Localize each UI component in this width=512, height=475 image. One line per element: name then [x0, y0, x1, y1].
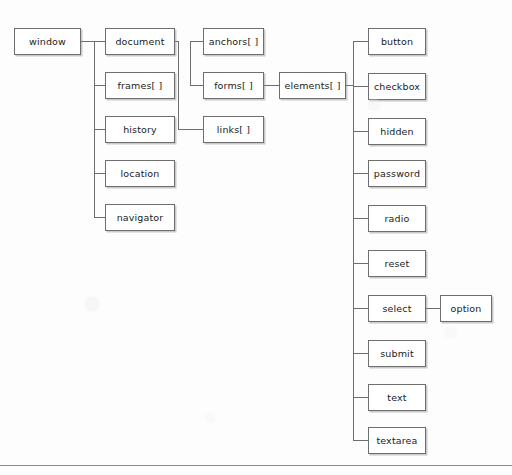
node-links[interactable]: links[ ]: [203, 116, 264, 143]
node-frames[interactable]: frames[ ]: [105, 72, 175, 99]
node-label-text: text: [387, 392, 406, 402]
node-label-checkbox: checkbox: [374, 81, 420, 91]
node-label-reset: reset: [385, 258, 410, 268]
node-label-history: history: [123, 124, 157, 134]
node-password[interactable]: password: [368, 160, 426, 187]
node-label-navigator: navigator: [117, 212, 164, 222]
node-textarea[interactable]: textarea: [368, 427, 426, 454]
node-radio[interactable]: radio: [368, 205, 426, 232]
node-navigator[interactable]: navigator: [105, 204, 175, 231]
node-checkbox[interactable]: checkbox: [368, 73, 426, 100]
node-hidden[interactable]: hidden: [368, 118, 426, 145]
node-label-button: button: [381, 36, 413, 46]
node-anchors[interactable]: anchors[ ]: [203, 28, 264, 55]
node-option[interactable]: option: [440, 295, 492, 322]
node-label-forms: forms[ ]: [214, 80, 253, 90]
page-rule: [0, 465, 512, 466]
node-forms[interactable]: forms[ ]: [203, 72, 264, 99]
node-label-document: document: [115, 36, 164, 46]
node-elements[interactable]: elements[ ]: [279, 72, 346, 99]
node-select[interactable]: select: [368, 295, 426, 322]
node-label-radio: radio: [385, 213, 410, 223]
node-document[interactable]: document: [105, 28, 175, 55]
node-location[interactable]: location: [105, 160, 175, 187]
diagram-canvas: window document frames[ ] history locati…: [0, 0, 512, 475]
node-label-hidden: hidden: [380, 126, 414, 136]
node-text[interactable]: text: [368, 384, 426, 411]
node-label-location: location: [121, 168, 160, 178]
node-label-anchors: anchors[ ]: [209, 36, 259, 46]
node-label-submit: submit: [380, 348, 414, 358]
node-label-option: option: [451, 303, 482, 313]
node-label-links: links[ ]: [217, 124, 250, 134]
node-label-window: window: [29, 36, 66, 46]
node-button[interactable]: button: [368, 28, 426, 55]
node-label-elements: elements[ ]: [284, 80, 340, 90]
edge-document-inner-trunk: [190, 42, 203, 86]
node-reset[interactable]: reset: [368, 250, 426, 277]
node-label-password: password: [374, 168, 420, 178]
node-history[interactable]: history: [105, 116, 175, 143]
node-window[interactable]: window: [14, 28, 81, 55]
node-label-textarea: textarea: [376, 435, 417, 445]
node-label-frames: frames[ ]: [118, 80, 163, 90]
node-submit[interactable]: submit: [368, 340, 426, 367]
node-label-select: select: [382, 303, 411, 313]
